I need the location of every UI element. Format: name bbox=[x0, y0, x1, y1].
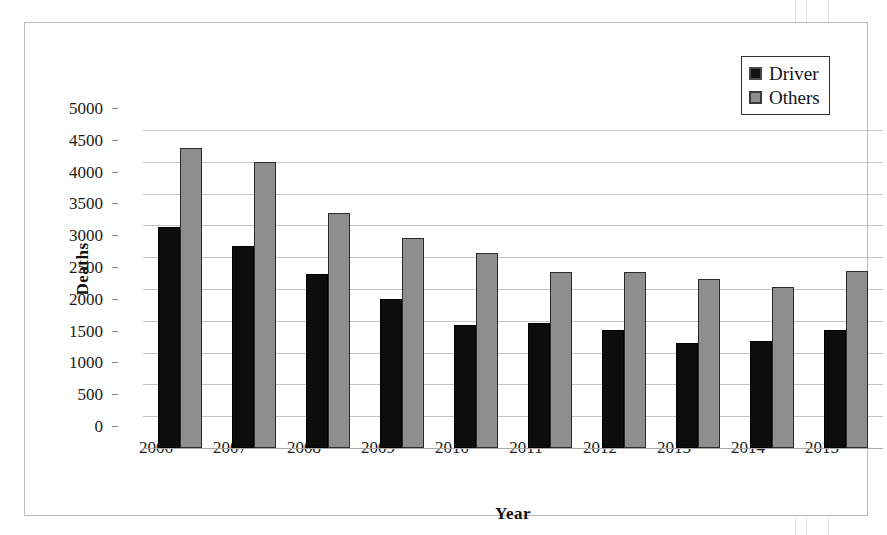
bar-others-2007 bbox=[254, 162, 276, 448]
bar-others-2012 bbox=[624, 272, 646, 448]
bar-driver-2007 bbox=[232, 246, 254, 448]
bar-driver-2012 bbox=[602, 330, 624, 448]
dark-square-swatch bbox=[749, 67, 762, 80]
y-axis-tickmark bbox=[112, 203, 118, 204]
y-axis-tick-label: 500 bbox=[25, 386, 103, 403]
y-axis-tick-label: 4500 bbox=[25, 132, 103, 149]
y-axis-tickmark bbox=[112, 235, 118, 236]
y-axis-tick-label: 1000 bbox=[25, 354, 103, 371]
y-axis-tickmark bbox=[112, 299, 118, 300]
bar-driver-2015 bbox=[824, 330, 846, 448]
bar-driver-2008 bbox=[306, 274, 328, 448]
bar-chart-figure: Deaths Year 5000450040003500300025002000… bbox=[0, 0, 887, 535]
y-axis-tick-label: 0 bbox=[25, 418, 103, 435]
bar-others-2014 bbox=[772, 287, 794, 448]
bar-driver-2006 bbox=[158, 227, 180, 448]
gray-square-swatch bbox=[749, 91, 762, 104]
bar-others-2010 bbox=[476, 253, 498, 448]
bar-others-2013 bbox=[698, 279, 720, 448]
legend-item-label: Driver bbox=[769, 64, 819, 83]
bar-driver-2010 bbox=[454, 325, 476, 448]
x-axis-title: Year bbox=[143, 504, 883, 524]
bar-driver-2011 bbox=[528, 323, 550, 448]
y-axis-tick-label: 3500 bbox=[25, 195, 103, 212]
bar-others-2008 bbox=[328, 213, 350, 448]
y-axis-tick-label: 1500 bbox=[25, 323, 103, 340]
chart-frame: Deaths Year 5000450040003500300025002000… bbox=[24, 22, 868, 516]
bar-driver-2013 bbox=[676, 343, 698, 448]
chart-legend: DriverOthers bbox=[741, 56, 830, 115]
y-axis-tickmark bbox=[112, 172, 118, 173]
y-axis-tick-label: 2500 bbox=[25, 259, 103, 276]
legend-item-others: Others bbox=[749, 85, 820, 109]
y-axis-tickmark bbox=[112, 267, 118, 268]
bar-others-2006 bbox=[180, 148, 202, 448]
y-axis-tickmark bbox=[112, 426, 118, 427]
y-axis-tickmark bbox=[112, 362, 118, 363]
y-axis-tick-label: 3000 bbox=[25, 227, 103, 244]
y-axis-tick-label: 5000 bbox=[25, 100, 103, 117]
bar-driver-2009 bbox=[380, 299, 402, 448]
plot-area bbox=[143, 130, 883, 448]
bar-driver-2014 bbox=[750, 341, 772, 448]
y-axis-tick-label: 2000 bbox=[25, 291, 103, 308]
y-axis-tickmark bbox=[112, 331, 118, 332]
legend-item-driver: Driver bbox=[749, 61, 820, 85]
y-axis-tickmark bbox=[112, 394, 118, 395]
bar-others-2015 bbox=[846, 271, 868, 448]
y-axis-tickmark bbox=[112, 108, 118, 109]
bar-others-2011 bbox=[550, 272, 572, 448]
y-axis-tickmark bbox=[112, 140, 118, 141]
bar-others-2009 bbox=[402, 238, 424, 448]
y-axis-tick-label: 4000 bbox=[25, 164, 103, 181]
legend-item-label: Others bbox=[769, 88, 820, 107]
gridline bbox=[143, 448, 883, 449]
gridline bbox=[143, 130, 883, 131]
